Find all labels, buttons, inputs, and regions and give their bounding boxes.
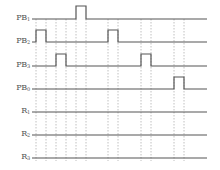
signal-name: PB (16, 13, 27, 22)
signal-label-r2: R2 (0, 129, 30, 139)
waveform-pb3 (32, 54, 207, 66)
signal-label-pb0: PB0 (0, 83, 30, 93)
signal-subscript: 0 (27, 86, 30, 92)
signal-name: PB (16, 36, 27, 45)
signal-subscript: 1 (27, 16, 30, 22)
signal-label-pb3: PB3 (0, 60, 30, 70)
signal-subscript: 2 (27, 132, 30, 138)
signal-subscript: 1 (27, 109, 30, 115)
signal-label-r1: R1 (0, 106, 30, 116)
signal-name: PB (16, 60, 27, 69)
signal-label-pb2: PB2 (0, 36, 30, 46)
signal-name: PB (16, 83, 27, 92)
signal-subscript: 3 (27, 155, 30, 161)
signal-label-r3: R3 (0, 152, 30, 162)
timing-diagram: PB1PB2PB3PB0R1R2R3 (0, 0, 220, 170)
waveform-pb1 (32, 6, 207, 19)
waveform-pb0 (32, 77, 207, 89)
timing-diagram-canvas (0, 0, 220, 170)
signal-subscript: 2 (27, 39, 30, 45)
signal-label-pb1: PB1 (0, 13, 30, 23)
waveform-pb2 (32, 30, 207, 42)
signal-subscript: 3 (27, 63, 30, 69)
